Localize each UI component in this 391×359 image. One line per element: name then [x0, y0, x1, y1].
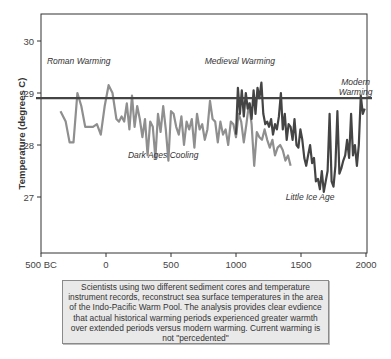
annotation-label: Warming: [339, 87, 373, 97]
caption-text: Scientists using two different sediment …: [68, 282, 323, 343]
x-tick-label: 500: [163, 259, 179, 270]
x-tick-label: 1500: [290, 259, 311, 270]
annotation-label: Dark Ages Cooling: [128, 150, 199, 160]
y-axis-label: Temperature (degrees C): [16, 69, 27, 199]
x-axis-ticks: 500 BC0500100015002000: [25, 253, 376, 270]
annotation-label: Modern: [341, 77, 370, 87]
annotation-label: Roman Warming: [47, 56, 111, 66]
x-tick-label: 2000: [355, 259, 376, 270]
x-tick-label: 0: [103, 259, 108, 270]
y-tick-label: 30: [23, 36, 34, 47]
annotation-label: Little Ice Age: [286, 192, 335, 202]
x-tick-label: 1000: [225, 259, 246, 270]
temperature-chart: 27282930 500 BC0500100015002000 Roman Wa…: [0, 0, 391, 270]
caption-box: Scientists using two different sediment …: [62, 280, 329, 344]
x-tick-label: 500 BC: [25, 259, 57, 270]
annotation-label: Medieval Warming: [205, 56, 276, 66]
